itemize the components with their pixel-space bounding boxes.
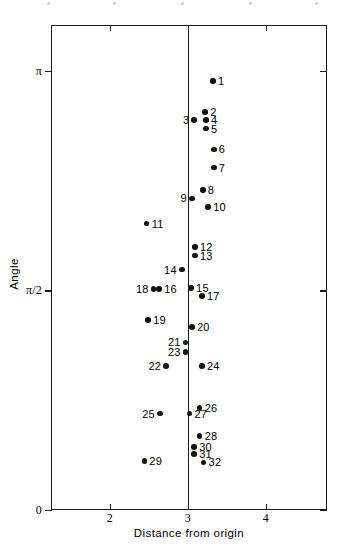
data-point (211, 165, 217, 171)
data-point-label: 1 (218, 76, 224, 87)
data-point-label: 6 (219, 144, 225, 155)
x-axis-label: Distance from origin (51, 527, 327, 539)
y-axis-tick-label: π (0, 64, 42, 79)
scatter-plot-figure: 234ππ/20 1234567891011121314151617181920… (0, 0, 340, 547)
x-axis-tick-label: 3 (176, 511, 200, 526)
data-point (203, 117, 209, 123)
data-point (179, 267, 185, 273)
data-point (211, 147, 217, 153)
x-axis-tick (266, 504, 267, 510)
y-axis-tick (45, 71, 52, 72)
data-point-label: 27 (195, 408, 208, 419)
data-point-label: 3 (183, 115, 189, 126)
scan-artifact (315, 2, 318, 5)
x-axis-tick-label: 2 (98, 511, 122, 526)
x-axis-tick-top (188, 25, 189, 31)
scan-artifact (249, 2, 252, 5)
scan-artifact (47, 2, 50, 5)
data-point-label: 16 (164, 284, 177, 295)
data-point (189, 196, 195, 202)
data-point-label: 9 (181, 193, 187, 204)
data-point-label: 25 (142, 408, 155, 419)
data-point-label: 18 (136, 284, 149, 295)
data-point-label: 5 (211, 123, 217, 134)
x-axis-tick (188, 504, 189, 510)
y-axis-tick-right (320, 510, 327, 511)
data-point (199, 363, 205, 369)
data-point (189, 324, 195, 330)
data-point (145, 317, 151, 323)
data-point-label: 8 (208, 184, 214, 195)
data-point (163, 363, 169, 369)
data-point (142, 458, 148, 464)
data-point (157, 411, 163, 417)
data-point-label: 10 (213, 201, 226, 212)
data-point (202, 109, 208, 115)
x-axis-tick-top (110, 25, 111, 31)
data-point-label: 29 (149, 456, 162, 467)
data-point-label: 22 (149, 361, 162, 372)
data-point-label: 13 (200, 250, 213, 261)
data-point-label: 19 (153, 314, 166, 325)
data-point (192, 244, 198, 250)
data-point (203, 126, 209, 132)
x-axis-tick-label: 4 (254, 511, 278, 526)
x-axis-tick-top (266, 25, 267, 31)
y-axis-tick-label: π/2 (0, 283, 42, 298)
y-axis-tick-label: 0 (0, 503, 42, 518)
reference-line-at-x3 (188, 25, 189, 510)
data-point (200, 187, 206, 193)
data-point (188, 285, 194, 291)
data-point-label: 23 (168, 347, 181, 358)
data-point (210, 78, 216, 84)
y-axis-tick-right (320, 290, 327, 291)
scan-artifact (113, 2, 116, 5)
data-point-label: 24 (207, 361, 220, 372)
y-axis-tick (45, 510, 52, 511)
data-point-label: 14 (164, 264, 177, 275)
data-point-label: 32 (209, 457, 222, 468)
data-point-label: 20 (197, 321, 210, 332)
data-point-label: 11 (152, 218, 164, 229)
y-axis-tick (45, 290, 52, 291)
data-point (205, 204, 211, 210)
data-point (191, 451, 197, 457)
data-point (156, 286, 162, 292)
data-point (199, 293, 205, 299)
data-point-label: 17 (207, 291, 220, 302)
y-axis-label: Angle (8, 244, 20, 304)
scan-artifact (181, 2, 184, 5)
y-axis-tick-right (320, 71, 327, 72)
data-point-label: 7 (219, 162, 225, 173)
data-point (191, 117, 197, 123)
x-axis-tick (110, 504, 111, 510)
data-point (191, 444, 197, 450)
